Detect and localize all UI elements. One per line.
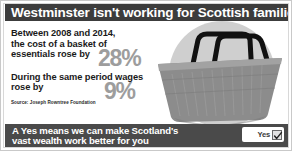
stat-value-cost: 28% — [98, 47, 140, 70]
checkbox-checked-icon[interactable] — [272, 130, 282, 140]
footer-banner: A Yes means we can make Scotland's vast … — [5, 124, 288, 147]
footer-line-2: vast wealth work better for you — [12, 135, 149, 146]
wage-line-2: rose by — [11, 82, 171, 93]
stat-block-cost: Between 2008 and 2014, the cost of a bas… — [11, 28, 171, 60]
stat-line-3: essentials rose by — [11, 49, 171, 60]
stat-value-wages: 9% — [104, 80, 135, 103]
statistics-copy: Between 2008 and 2014, the cost of a bas… — [11, 28, 171, 93]
headline-text: Westminster isn't working for Scottish f… — [11, 5, 288, 21]
stat-line-1: Between 2008 and 2014, — [11, 28, 171, 39]
yes-label: Yes — [258, 130, 271, 139]
shopping-basket-illustration — [150, 18, 290, 130]
source-citation: Source: Joseph Rowntree Foundation — [11, 100, 96, 105]
stat-line-2: the cost of a basket of — [11, 39, 171, 50]
headline-banner: Westminster isn't working for Scottish f… — [5, 4, 288, 21]
stat-block-wages: During the same period wages rose by 9% — [11, 72, 171, 93]
yes-vote-badge[interactable]: Yes — [242, 127, 284, 142]
footer-text: A Yes means we can make Scotland's vast … — [12, 126, 178, 146]
wage-line-1: During the same period wages — [11, 72, 171, 83]
campaign-poster: Westminster isn't working for Scottish f… — [0, 0, 292, 151]
